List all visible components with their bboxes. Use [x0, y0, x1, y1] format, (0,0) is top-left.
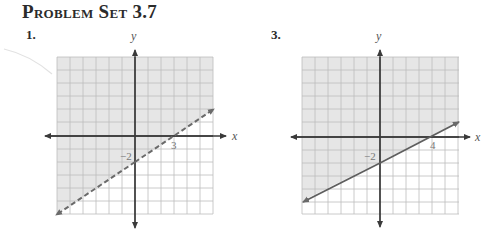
x-intercept-label: 4	[430, 139, 436, 151]
graph-3-labels: y x 4 −2	[0, 0, 485, 235]
y-axis-label: y	[375, 29, 382, 43]
y-intercept-label: −2	[364, 150, 376, 162]
x-axis-label: x	[474, 130, 481, 144]
